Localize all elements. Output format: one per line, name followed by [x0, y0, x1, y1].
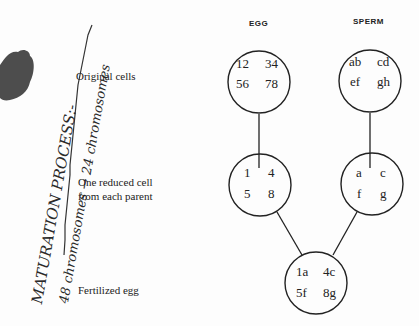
egg-original-gene: 12: [236, 56, 249, 72]
label-original-cells: Original cells: [76, 70, 136, 83]
header-sperm: SPERM: [353, 17, 384, 26]
egg-original-gene: 78: [265, 76, 278, 92]
fertilized-gene: 8g: [323, 285, 336, 301]
sperm-original-gene: ab: [349, 54, 361, 70]
egg-reduced-gene: 4: [268, 165, 275, 181]
egg-original-gene: 56: [236, 76, 249, 92]
ink-blot: [0, 50, 34, 100]
egg-original-gene: 34: [265, 56, 278, 72]
sperm-reduced-gene: g: [380, 186, 387, 202]
sperm-reduced-gene: a: [356, 165, 362, 181]
sperm-original-gene: cd: [377, 54, 389, 70]
egg-reduced-cell: [229, 154, 291, 216]
label-reduced-line1: One reduced cell: [78, 176, 153, 189]
egg-reduced-gene: 8: [268, 186, 275, 202]
fertilized-egg-cell: [285, 252, 347, 314]
label-fertilized-egg: Fertilized egg: [78, 284, 139, 297]
header-egg: EGG: [249, 19, 268, 28]
egg-reduced-gene: 5: [244, 186, 251, 202]
sperm-reduced-gene: c: [380, 165, 386, 181]
sperm-reduced-cell: [341, 153, 403, 215]
fertilized-gene: 4c: [323, 264, 335, 280]
sperm-original-gene: ef: [350, 74, 360, 90]
egg-reduced-gene: 1: [244, 165, 251, 181]
label-reduced-line2: from each parent: [78, 190, 153, 203]
sperm-reduced-gene: f: [357, 186, 361, 202]
fertilized-gene: 1a: [296, 264, 308, 280]
fertilized-gene: 5f: [296, 285, 307, 301]
sperm-original-gene: gh: [377, 74, 390, 90]
maturation-diagram: MATURATION PROCESS:- 48 chromosomes → 24…: [0, 0, 419, 326]
